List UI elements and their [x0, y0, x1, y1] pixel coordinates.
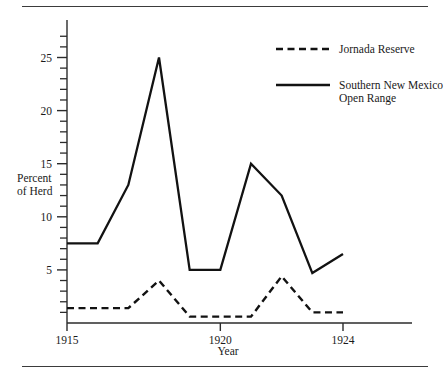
x-axis-title: Year: [217, 345, 238, 357]
line-chart: 510152025 191519201924 Percent of Herd Y…: [0, 0, 446, 378]
axes-group: [67, 20, 412, 323]
y-tick-label-15: 15: [41, 158, 53, 170]
legend-label-southern-new-mexico-open-range-line1: Southern New Mexico: [339, 79, 443, 91]
chart-legend: Jornada Reserve Southern New Mexico Open…: [276, 43, 443, 105]
x-tick-label-1924: 1924: [332, 334, 355, 346]
y-tick-label-20: 20: [41, 105, 53, 117]
data-series-group: [67, 58, 343, 317]
figure-container: 510152025 191519201924 Percent of Herd Y…: [0, 0, 446, 378]
x-axis-tick-labels: 191519201924: [56, 334, 355, 346]
y-axis-minor-ticks: [60, 36, 67, 312]
y-tick-label-10: 10: [41, 211, 53, 223]
y-axis-title-line2: of Herd: [17, 185, 53, 197]
y-tick-label-5: 5: [46, 264, 52, 276]
x-tick-label-1915: 1915: [56, 334, 79, 346]
legend-label-southern-new-mexico-open-range-line2: Open Range: [339, 92, 396, 105]
y-tick-label-25: 25: [41, 52, 53, 64]
series-line-jornada-reserve: [67, 276, 343, 316]
series-line-southern-new-mexico-open-range: [67, 58, 343, 274]
y-axis-tick-labels: 510152025: [41, 52, 53, 276]
legend-label-jornada-reserve: Jornada Reserve: [339, 43, 415, 55]
y-axis-title-line1: Percent: [17, 172, 52, 184]
x-axis-major-ticks: [67, 323, 343, 331]
